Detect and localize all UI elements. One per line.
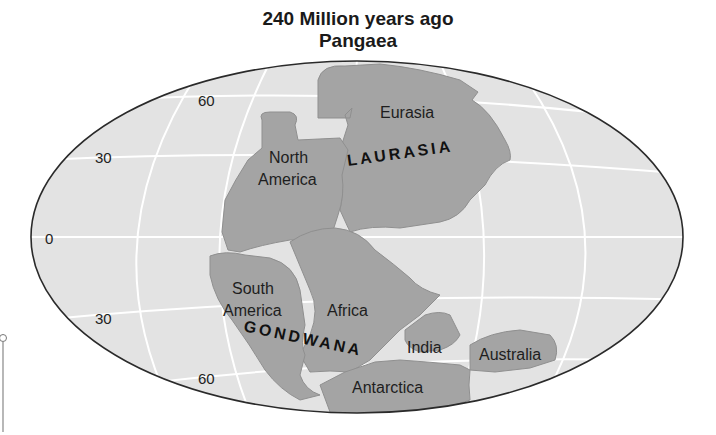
pangaea-map: 60 30 0 30 60 Eurasia North America Sout… xyxy=(0,0,716,435)
label-eurasia: Eurasia xyxy=(380,104,434,121)
lat-label-s60: 60 xyxy=(198,370,215,387)
label-india: India xyxy=(407,339,442,356)
label-antarctica: Antarctica xyxy=(352,379,423,396)
label-africa: Africa xyxy=(327,302,368,319)
lat-label-n30: 30 xyxy=(95,149,112,166)
lat-label-n60: 60 xyxy=(198,92,215,109)
label-north-america-line1: North xyxy=(269,149,308,166)
lat-label-equator: 0 xyxy=(45,230,53,247)
edge-marker xyxy=(0,332,8,432)
lat-label-s30: 30 xyxy=(95,310,112,327)
label-australia: Australia xyxy=(479,346,541,363)
label-north-america-line2: America xyxy=(258,171,317,188)
label-south-america-line2: America xyxy=(223,302,282,319)
label-south-america-line1: South xyxy=(232,280,274,297)
